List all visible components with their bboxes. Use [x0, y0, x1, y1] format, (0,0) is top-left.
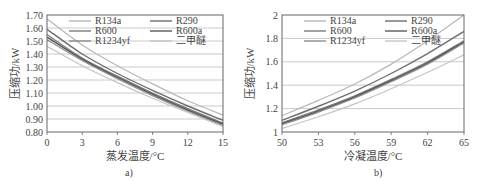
x-tick-label: 15: [218, 137, 228, 148]
x-axis-label: 蒸发温度/°C: [106, 149, 165, 162]
series-line-rank-6: [282, 55, 464, 129]
y-axis-label: 压缩功/kW: [9, 47, 21, 100]
legend-label: R1234yf: [330, 35, 366, 46]
chart-b: 11.21.41.61.82505356596265R134aR290R600R…: [240, 0, 479, 187]
legend-label: 二甲醚: [411, 34, 441, 46]
y-axis-label: 压缩功/kW: [244, 47, 256, 100]
chart-a-caption: a): [125, 167, 133, 178]
chart-a: 0.800.901.001.101.201.301.401.501.601.70…: [0, 0, 240, 187]
x-tick-label: 65: [459, 137, 469, 148]
x-tick-label: 62: [423, 137, 433, 148]
x-tick-label: 12: [183, 137, 193, 148]
x-tick-label: 9: [150, 137, 155, 148]
y-tick-label: 1.00: [26, 101, 44, 112]
y-tick-label: 1.50: [26, 36, 44, 47]
y-tick-label: 1.4: [266, 80, 279, 91]
y-tick-label: 1.60: [26, 23, 44, 34]
y-tick-label: 1.30: [26, 62, 44, 73]
legend-label: 二甲醚: [176, 34, 206, 46]
y-tick-label: 1.40: [26, 49, 44, 60]
x-tick-label: 6: [115, 137, 120, 148]
y-tick-label: 2: [273, 10, 278, 21]
y-tick-label: 1.2: [266, 103, 279, 114]
y-tick-label: 0.90: [26, 114, 44, 125]
y-tick-label: 0.80: [26, 127, 44, 138]
x-tick-label: 50: [277, 137, 287, 148]
y-tick-label: 1.20: [26, 75, 44, 86]
x-tick-label: 59: [386, 137, 396, 148]
x-tick-label: 53: [313, 137, 323, 148]
x-tick-label: 56: [350, 137, 360, 148]
series-line-rank-4: [47, 37, 223, 124]
x-axis-label: 冷凝温度/°C: [344, 149, 403, 162]
y-tick-label: 1.70: [26, 10, 44, 21]
x-tick-label: 3: [80, 137, 85, 148]
chart-b-plot: 11.21.41.61.82505356596265R134aR290R600R…: [240, 0, 479, 187]
chart-b-caption: b): [374, 167, 382, 178]
legend-label: R1234yf: [95, 35, 131, 46]
y-tick-label: 1: [273, 127, 278, 138]
y-tick-label: 1.6: [266, 56, 279, 67]
x-tick-label: 0: [45, 137, 50, 148]
y-tick-label: 1.10: [26, 88, 44, 99]
y-tick-label: 1.8: [266, 33, 279, 44]
chart-a-plot: 0.800.901.001.101.201.301.401.501.601.70…: [0, 0, 240, 187]
